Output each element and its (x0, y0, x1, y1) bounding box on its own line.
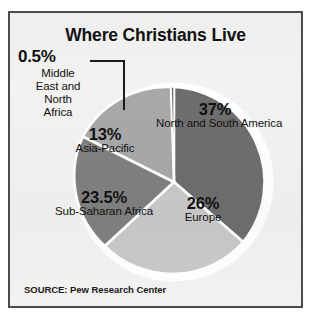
slice-label-asia-pacific: 13% Asia-Pacific (52, 126, 158, 155)
slice-percent: 13% (52, 126, 158, 143)
slice-name-line-4: Africa (16, 105, 100, 118)
slice-name: Sub-Saharan Africa (48, 206, 160, 218)
slice-name-line-2: East and (16, 79, 100, 92)
slice-name-line-1: Middle (16, 66, 100, 79)
chart-figure: Where Christians Live (0, 0, 315, 322)
slice-label-europe: 26% Europe (160, 195, 246, 224)
slice-name: North and South America (156, 118, 274, 130)
slice-name: Asia-Pacific (52, 143, 158, 155)
slice-percent: 37% (156, 101, 274, 118)
slice-name-line-3: North (16, 92, 100, 105)
slice-percent: 26% (160, 195, 246, 212)
source-note: SOURCE: Pew Research Center (24, 284, 166, 295)
slice-percent: 0.5% (16, 48, 100, 66)
chart-panel: Where Christians Live (8, 11, 303, 308)
slice-label-sub-saharan-africa: 23.5% Sub-Saharan Africa (48, 189, 160, 218)
slice-name: Europe (160, 212, 246, 224)
pie-chart: 37% North and South America 26% Europe 2… (10, 13, 305, 310)
slice-label-middle-east-and-north-africa: 0.5% Middle East and North Africa (16, 48, 100, 118)
slice-label-north-and-south-america: 37% North and South America (156, 101, 274, 130)
slice-percent: 23.5% (48, 189, 160, 206)
